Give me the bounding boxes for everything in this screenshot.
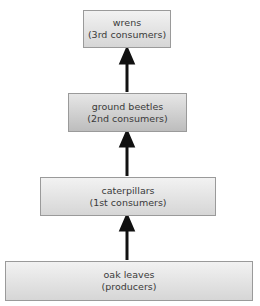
- level-role: (2nd consumers): [87, 113, 168, 125]
- level-role: (3rd consumers): [88, 29, 166, 41]
- level-name: wrens: [113, 17, 141, 29]
- arrowhead-icon: [121, 132, 133, 146]
- level-name: ground beetles: [92, 101, 164, 113]
- arrowhead-icon: [121, 216, 133, 230]
- level-name: oak leaves: [104, 269, 155, 281]
- level-oak-leaves: oak leaves (producers): [5, 261, 253, 301]
- level-ground-beetles: ground beetles (2nd consumers): [68, 93, 187, 132]
- level-wrens: wrens (3rd consumers): [83, 10, 171, 48]
- level-role: (1st consumers): [89, 197, 166, 209]
- arrowhead-icon: [121, 49, 133, 63]
- level-name: caterpillars: [101, 185, 154, 197]
- level-role: (producers): [102, 281, 157, 293]
- level-caterpillars: caterpillars (1st consumers): [40, 177, 216, 216]
